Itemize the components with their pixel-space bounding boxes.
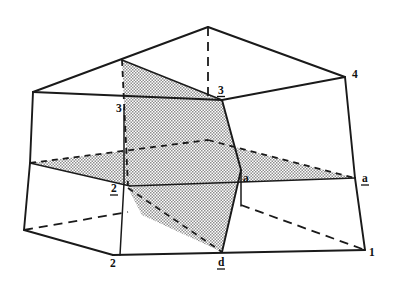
- vertical-plane-upper: [122, 60, 241, 186]
- edge-right-vertical: [345, 77, 365, 250]
- edge-bottom-left: [24, 230, 113, 255]
- edge-left-vertical: [24, 92, 33, 230]
- label-4: 4: [352, 68, 358, 80]
- figure-root: 4 3 3 a a 2 2 d 1: [0, 0, 397, 286]
- block-diagram: 4 3 3 a a 2 2 d 1: [0, 0, 397, 286]
- label-2-bottom: 2: [110, 257, 116, 269]
- edge-apex-to-top-left: [33, 27, 208, 92]
- label-a-right: a: [362, 172, 368, 184]
- edge-bottom-front: [113, 250, 365, 255]
- edge-hidden-bottom-left: [24, 212, 128, 230]
- edge-apex-to-top-right: [208, 27, 345, 77]
- label-d-bottom: d: [218, 256, 225, 268]
- label-3-upper: 3: [218, 84, 224, 96]
- edge-hidden-bottom-right: [241, 205, 365, 250]
- label-1: 1: [369, 246, 375, 258]
- label-a-center: a: [243, 172, 249, 184]
- label-3-left: 3: [116, 102, 122, 114]
- edge-node3-to-top-right: [222, 77, 345, 100]
- label-2-left: 2: [111, 182, 117, 194]
